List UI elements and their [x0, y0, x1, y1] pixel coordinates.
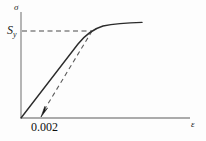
stress-strain-curve [21, 22, 142, 118]
yield-strength-subscript: y [13, 30, 17, 39]
stress-strain-figure: σ ε Sy 0.002 [0, 0, 206, 141]
yield-strength-label: Sy [7, 24, 17, 39]
offset-strain-label: 0.002 [31, 120, 58, 135]
x-axis-label: ε [191, 120, 195, 129]
y-axis-label: σ [14, 3, 18, 12]
offset-arrow-icon [41, 106, 48, 117]
offset-elastic-dashed-line [43, 31, 92, 112]
